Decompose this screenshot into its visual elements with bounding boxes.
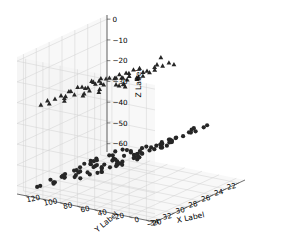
scatter-point: [145, 68, 150, 72]
figure-canvas: 22242628303234 −20020406080100120 0−10−2…: [0, 0, 293, 236]
scatter-point: [167, 140, 171, 144]
scatter-point: [53, 180, 57, 184]
scatter-point: [152, 147, 156, 151]
scatter-point: [108, 165, 112, 169]
scatter-point: [113, 158, 117, 162]
scatter-point: [102, 163, 106, 167]
scatter-point: [74, 173, 78, 177]
scatter-point: [202, 125, 206, 129]
axis-tick-label: −10: [112, 36, 128, 45]
scatter-point: [122, 154, 126, 158]
scatter-point: [172, 62, 177, 66]
scatter-point: [187, 130, 191, 134]
scatter-point: [95, 171, 99, 175]
axis-tick-label: 32: [162, 211, 173, 222]
scatter-point: [132, 156, 136, 160]
scatter-point: [137, 66, 142, 70]
scatter-point: [91, 165, 95, 169]
scatter-point: [124, 70, 129, 74]
pane-back-walls: [17, 15, 245, 222]
axis-tick-label: −50: [112, 119, 128, 128]
scatter-point: [147, 148, 151, 152]
scatter-point: [113, 149, 117, 153]
axis-tick-label: −30: [112, 77, 128, 86]
scatter-point: [61, 173, 65, 177]
scatter-point: [160, 63, 165, 67]
scatter-point: [155, 62, 160, 66]
scatter-point: [82, 162, 86, 166]
scatter-point: [111, 153, 115, 157]
axis-tick-label: −40: [112, 98, 128, 107]
axis-tick-label: −20: [146, 217, 163, 229]
scatter-point: [181, 134, 185, 138]
z-axis-title: Z Label: [134, 69, 143, 97]
scatter-point: [78, 176, 82, 180]
scatter-point: [88, 172, 92, 176]
scatter-point: [117, 72, 122, 76]
axis-tick-label: −60: [112, 139, 128, 148]
scatter-point: [89, 159, 93, 163]
axis-tick-label: 120: [26, 193, 42, 205]
scatter3d-plot: 22242628303234 −20020406080100120 0−10−2…: [0, 0, 293, 236]
scatter-point: [167, 60, 172, 64]
scatter-point: [158, 55, 163, 59]
scatter-point: [125, 148, 129, 152]
scatter-point: [78, 165, 82, 169]
scatter-point: [129, 150, 133, 154]
scatter-point: [160, 146, 164, 150]
axis-tick-label: 22: [226, 181, 237, 192]
scatter-point: [100, 166, 104, 170]
scatter-point: [120, 163, 124, 167]
scatter-point: [135, 152, 139, 156]
axis-tick-label: 0: [112, 15, 117, 24]
scatter-point: [194, 129, 198, 133]
axis-tick-label: −20: [112, 56, 128, 65]
scatter-point: [72, 168, 76, 172]
scatter-point: [138, 149, 142, 153]
scatter-point: [38, 184, 42, 188]
scatter-point: [174, 136, 178, 140]
scatter-point: [94, 156, 98, 160]
scatter-point: [48, 178, 52, 182]
scatter-point: [160, 142, 164, 146]
axis-tick-label: 100: [43, 196, 59, 208]
scatter-point: [144, 145, 148, 149]
